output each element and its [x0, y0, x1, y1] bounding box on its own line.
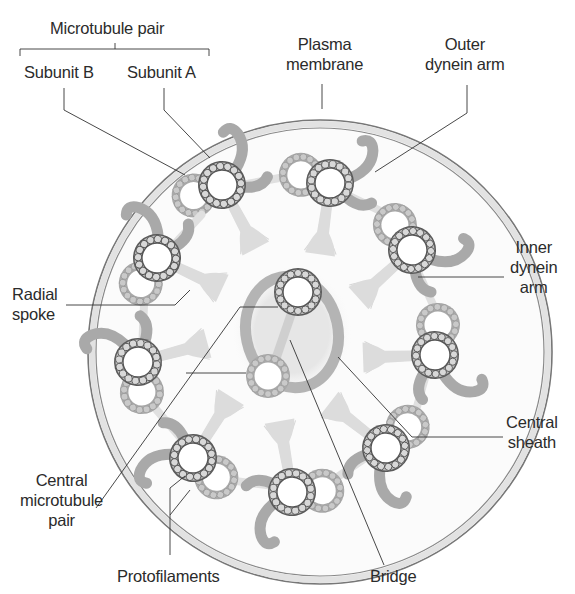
label-protofilaments: Protofilaments	[117, 566, 220, 586]
label-central-sheath-line1: Central	[506, 412, 558, 432]
label-inner-dynein-arm: Inner dynein arm	[510, 237, 557, 297]
label-microtubule-pair: Microtubule pair	[50, 18, 164, 38]
label-inner-dynein-arm-line1: Inner	[510, 237, 557, 257]
label-central-microtubule-pair-line2: microtubule	[20, 490, 103, 510]
label-central-microtubule-pair-line3: pair	[20, 510, 103, 530]
label-central-sheath: Central sheath	[506, 412, 558, 452]
label-subunit-b: Subunit B	[24, 62, 94, 82]
label-plasma-membrane-line1: Plasma	[286, 34, 363, 54]
label-radial-spoke-line2: spoke	[12, 304, 58, 324]
label-inner-dynein-arm-line2: dynein	[510, 257, 557, 277]
label-bridge: Bridge	[370, 566, 417, 586]
label-central-microtubule-pair: Central microtubule pair	[20, 470, 103, 530]
label-plasma-membrane: Plasma membrane	[286, 34, 363, 74]
label-central-microtubule-pair-line1: Central	[20, 470, 103, 490]
label-outer-dynein-arm: Outer dynein arm	[425, 34, 505, 74]
label-plasma-membrane-line2: membrane	[286, 54, 363, 74]
label-radial-spoke: Radial spoke	[12, 284, 58, 324]
label-radial-spoke-line1: Radial	[12, 284, 58, 304]
label-outer-dynein-arm-line1: Outer	[425, 34, 505, 54]
label-central-sheath-line2: sheath	[506, 432, 558, 452]
label-inner-dynein-arm-line3: arm	[510, 277, 557, 297]
label-outer-dynein-arm-line2: dynein arm	[425, 54, 505, 74]
label-subunit-a: Subunit A	[127, 62, 196, 82]
